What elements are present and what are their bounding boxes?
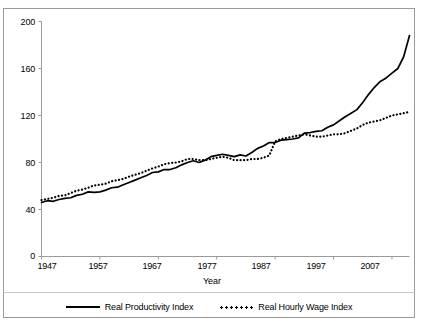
legend-label-real-productivity-index: Real Productivity Index: [105, 303, 194, 312]
legend-divider: [3, 292, 415, 293]
chart-figure: 200 160 120 80 40 0 1947 1957 1967 1977 …: [0, 0, 426, 324]
y-tick-label-40: 40: [9, 206, 35, 215]
x-tick-label-1947: 1947: [27, 262, 67, 271]
y-tick-label-200: 200: [9, 18, 35, 27]
x-axis-title: Year: [182, 277, 242, 286]
x-tick-label-1987: 1987: [241, 262, 281, 271]
x-tick-label-2007: 2007: [350, 262, 390, 271]
legend-label-real-hourly-wage-index: Real Hourly Wage Index: [258, 303, 352, 312]
legend-item-real-hourly-wage-index[interactable]: Real Hourly Wage Index: [219, 303, 352, 312]
y-tick-label-120: 120: [9, 112, 35, 121]
y-tick-label-0: 0: [9, 252, 35, 261]
y-tick-label-80: 80: [9, 159, 35, 168]
legend-item-real-productivity-index[interactable]: Real Productivity Index: [66, 303, 194, 312]
x-tick-label-1957: 1957: [78, 262, 118, 271]
y-tick-label-160: 160: [9, 65, 35, 74]
x-tick-label-1977: 1977: [187, 262, 227, 271]
x-tick-label-1997: 1997: [296, 262, 336, 271]
series-line-real-hourly-wage-index: [42, 112, 410, 200]
x-tick-label-1967: 1967: [132, 262, 172, 271]
legend-line-swatch-solid-icon: [66, 306, 100, 308]
legend-line-swatch-dotted-icon: [219, 306, 253, 309]
chart-legend: Real Productivity Index Real Hourly Wage…: [3, 296, 415, 318]
series-line-real-productivity-index: [42, 36, 410, 203]
